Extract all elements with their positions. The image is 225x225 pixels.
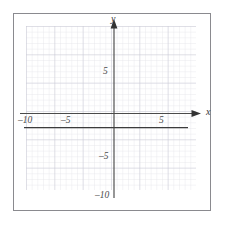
y-tick-label-pos5: 5	[103, 67, 108, 77]
y-axis-label: y	[111, 14, 115, 24]
y-tick-label-neg5: –5	[99, 152, 109, 162]
x-axis-label: x	[206, 107, 210, 117]
y-tick-label-neg10: –10	[95, 191, 109, 201]
x-tick-label-pos5: 5	[159, 116, 164, 126]
x-tick-label-neg5: –5	[61, 116, 71, 126]
grid-lines	[26, 26, 196, 190]
x-tick-label-neg10: –10	[18, 116, 32, 126]
graph-figure: x y –10 –5 5 5 –5 –10	[0, 0, 225, 225]
coordinate-grid	[0, 0, 225, 225]
